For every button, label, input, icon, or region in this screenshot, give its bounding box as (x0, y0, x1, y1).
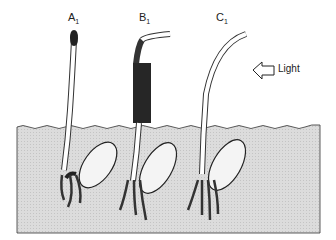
light-arrow-icon (253, 62, 274, 79)
light-label: Light (278, 63, 300, 74)
label-b: B1 (139, 11, 150, 25)
label-c: C1 (216, 11, 228, 25)
label-a: A1 (68, 11, 79, 25)
diagram-canvas (0, 0, 336, 240)
